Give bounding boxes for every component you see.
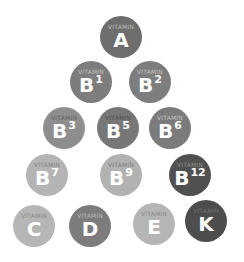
vitamin-letter: B3 (52, 121, 76, 141)
vitamin-badge-b12: VITAMINB12 (169, 154, 211, 196)
vitamin-label: VITAMIN (34, 161, 60, 168)
vitamin-subscript: 7 (51, 167, 59, 178)
vitamin-label: VITAMIN (77, 212, 103, 219)
vitamin-label: VITAMIN (21, 212, 47, 219)
vitamin-badge-b9: VITAMINB9 (100, 154, 142, 196)
vitamin-letter: D (82, 219, 99, 239)
vitamin-badge-a: VITAMINA (100, 16, 142, 58)
vitamin-label: VITAMIN (193, 207, 219, 214)
vitamin-subscript: 2 (154, 74, 162, 85)
vitamin-letter: B9 (109, 168, 133, 188)
vitamin-badge-b5: VITAMINB5 (97, 107, 139, 149)
vitamin-letter: B5 (106, 121, 130, 141)
vitamin-letter: A (113, 30, 128, 50)
vitamin-label: VITAMIN (141, 210, 167, 217)
vitamin-label: VITAMIN (108, 161, 134, 168)
vitamin-badge-c: VITAMINC (13, 205, 55, 247)
vitamin-subscript: 5 (122, 120, 130, 131)
vitamin-letter: B12 (174, 168, 206, 188)
vitamin-badge-k: VITAMINK (185, 200, 227, 242)
vitamin-letter: E (147, 217, 161, 237)
vitamin-letter: C (27, 219, 42, 239)
vitamin-label: VITAMIN (108, 23, 134, 30)
vitamin-badge-b2: VITAMINB2 (129, 61, 171, 103)
vitamin-subscript: 9 (125, 167, 133, 178)
vitamin-letter: B6 (158, 121, 182, 141)
vitamin-badge-b3: VITAMINB3 (43, 107, 85, 149)
vitamin-badge-b7: VITAMINB7 (26, 154, 68, 196)
vitamin-label: VITAMIN (78, 68, 104, 75)
vitamin-badge-d: VITAMIND (69, 205, 111, 247)
vitamin-label: VITAMIN (177, 161, 203, 168)
vitamin-letter: B7 (35, 168, 59, 188)
vitamin-label: VITAMIN (137, 68, 163, 75)
vitamin-letter: K (198, 214, 214, 234)
vitamin-subscript: 12 (190, 167, 205, 178)
vitamin-badge-b6: VITAMINB6 (149, 107, 191, 149)
vitamin-badge-e: VITAMINE (133, 203, 175, 245)
vitamin-subscript: 3 (68, 120, 76, 131)
vitamin-letter: B2 (138, 75, 162, 95)
vitamin-label: VITAMIN (105, 114, 131, 121)
vitamin-label: VITAMIN (51, 114, 77, 121)
vitamin-badge-b1: VITAMINB1 (70, 61, 112, 103)
vitamin-label: VITAMIN (157, 114, 183, 121)
vitamin-subscript: 1 (95, 74, 103, 85)
vitamin-subscript: 6 (174, 120, 182, 131)
vitamin-letter: B1 (79, 75, 103, 95)
